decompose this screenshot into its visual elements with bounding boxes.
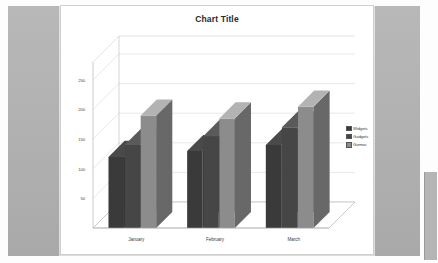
legend-item-widgets[interactable]: Widgets xyxy=(346,126,386,131)
plot-svg xyxy=(61,28,373,233)
chart-title: Chart Title xyxy=(61,14,373,24)
legend-swatch-icon xyxy=(346,134,352,140)
legend-label: Widgets xyxy=(353,126,367,131)
x-tick-february: February xyxy=(185,237,245,242)
legend-label: Gadgets xyxy=(353,134,368,139)
legend-label: Gizmos xyxy=(353,142,367,147)
chart-canvas[interactable]: Chart Title 50100150200250 JanuaryFebrua… xyxy=(60,5,374,255)
y-tick-50: 50 xyxy=(63,196,85,201)
plot-area[interactable] xyxy=(61,28,373,233)
x-tick-january: January xyxy=(106,237,166,242)
legend-swatch-icon xyxy=(346,126,352,132)
y-tick-100: 100 xyxy=(63,167,85,172)
y-tick-200: 200 xyxy=(63,107,85,112)
legend-item-gadgets[interactable]: Gadgets xyxy=(346,134,386,139)
chart-legend[interactable]: WidgetsGadgetsGizmos xyxy=(346,126,386,151)
x-tick-march: March xyxy=(264,237,324,242)
legend-swatch-icon xyxy=(346,142,352,148)
screenshot-root: Chart Title 50100150200250 JanuaryFebrua… xyxy=(0,0,438,263)
y-tick-150: 150 xyxy=(63,137,85,142)
legend-item-gizmos[interactable]: Gizmos xyxy=(346,142,386,147)
right-edge-strip xyxy=(424,172,437,260)
y-tick-250: 250 xyxy=(63,78,85,83)
